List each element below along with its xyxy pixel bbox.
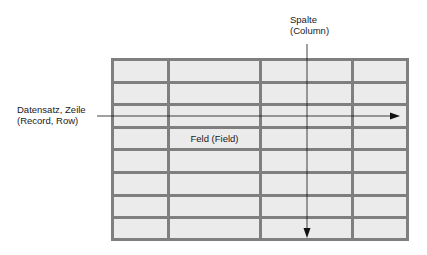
column-arrow xyxy=(304,44,311,238)
arrows-overlay xyxy=(0,0,427,255)
row-arrow xyxy=(97,113,400,120)
